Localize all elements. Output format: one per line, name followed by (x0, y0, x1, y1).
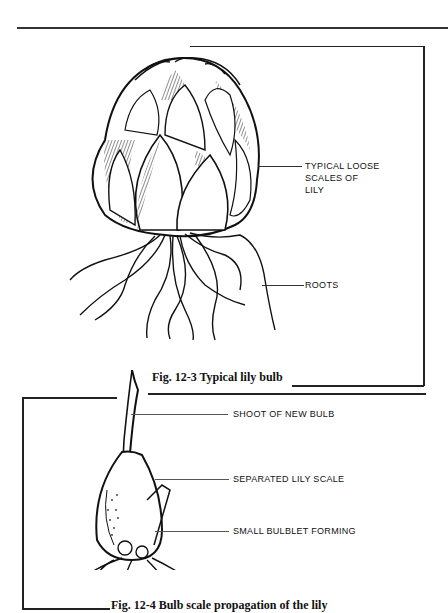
leader-scales (258, 166, 302, 167)
figure-caption-12-4: Fig. 12-4 Bulb scale propagation of the … (111, 598, 327, 613)
header-rule (17, 27, 448, 29)
lily-scale-propagation-illustration (62, 370, 232, 570)
figure-frame-right (423, 46, 425, 386)
figure-frame-left (22, 397, 24, 609)
leader-scale (155, 479, 229, 480)
label-small-bulblet-forming: SMALL BULBLET FORMING (233, 525, 356, 537)
figure-frame-bottom (22, 608, 110, 610)
leader-roots (262, 285, 304, 286)
leader-bulblet (155, 531, 229, 532)
lily-bulb-illustration (60, 40, 310, 340)
label-shoot-of-new-bulb: SHOOT OF NEW BULB (233, 408, 334, 420)
leader-shoot (131, 414, 228, 415)
caption-underline (292, 385, 424, 387)
label-separated-lily-scale: SEPARATED LILY SCALE (233, 473, 344, 485)
label-typical-loose-scales: TYPICAL LOOSE SCALES OF LILY (305, 160, 380, 196)
label-roots: ROOTS (305, 279, 339, 291)
